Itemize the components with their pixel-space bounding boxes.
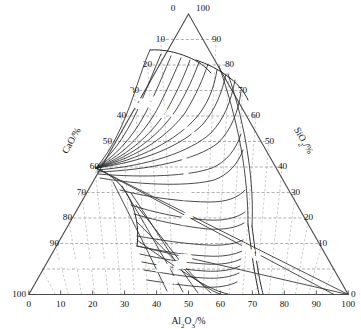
bottom-tick-80: 80: [280, 299, 290, 309]
bottom-tick-50: 50: [184, 299, 194, 309]
left-tick-10: 10: [156, 34, 166, 44]
right-tick-80: 80: [225, 59, 235, 69]
apex-top-right-value: 100: [196, 3, 210, 13]
contour-label: 80: [177, 245, 185, 254]
bottom-tick-70: 70: [248, 299, 258, 309]
ratio-label-r12: R=1.2: [239, 243, 261, 262]
grid-horizontal: [42, 40, 335, 270]
left-tick-100: 100: [12, 289, 26, 299]
bottom-tick-10: 10: [56, 299, 66, 309]
contour-label: 50: [179, 233, 187, 242]
contour-label: 150: [174, 261, 187, 270]
contour-label: 10: [182, 192, 190, 201]
triangle-axes: [29, 14, 348, 295]
phase-boundary-right-2: [252, 226, 263, 294]
contour-label: 300: [165, 276, 178, 285]
left-tick-90: 90: [50, 238, 60, 248]
right-tick-0: 0: [351, 289, 356, 299]
bottom-tick-0: 0: [27, 299, 32, 309]
left-axis-title-text: CaO/%: [59, 125, 83, 155]
right-axis-title: SiO2/%: [289, 125, 317, 158]
right-tick-70: 70: [238, 85, 248, 95]
right-tick-40: 40: [278, 161, 288, 171]
contour-label: 0.3: [144, 95, 157, 108]
right-tick-90: 90: [212, 34, 222, 44]
apex-labels: 0 100: [171, 3, 211, 13]
ternary-chart-svg: 0 100 10 20 30 40 50 60 70 80 90 100 90 …: [0, 0, 361, 329]
right-tick-30: 30: [291, 187, 301, 197]
bottom-tick-60: 60: [216, 299, 226, 309]
bottom-tick-30: 30: [120, 299, 130, 309]
contour-curve: [113, 182, 167, 291]
contour-label: 30: [182, 217, 190, 226]
right-tick-10: 10: [318, 238, 328, 248]
phase-boundary-top-2: [150, 50, 211, 73]
left-tick-60: 60: [90, 161, 100, 171]
contour-label: 2: [191, 132, 201, 139]
contour-label: 0.1: [132, 96, 145, 109]
contour-curve: [97, 80, 235, 170]
contour-label: 0.5: [155, 105, 168, 118]
right-tick-50: 50: [265, 136, 275, 146]
bottom-tick-90: 90: [312, 299, 322, 309]
bottom-axis-title: Al2O3/%: [171, 315, 205, 329]
left-tick-70: 70: [77, 187, 87, 197]
left-axis-title: CaO/%: [59, 125, 83, 155]
left-tick-40: 40: [117, 110, 127, 120]
contour-label: 1: [170, 113, 180, 120]
apex-top-left-value: 0: [171, 3, 176, 13]
left-tick-50: 50: [103, 136, 113, 146]
contour-label: 200: [157, 264, 170, 273]
bottom-tick-20: 20: [88, 299, 98, 309]
right-tick-60: 60: [251, 110, 261, 120]
contour-curve: [147, 280, 237, 287]
bottom-axis-tick-labels: 0 10 20 30 40 50 60 70 80 90 100: [27, 299, 356, 309]
left-tick-20: 20: [143, 59, 153, 69]
bottom-tick-100: 100: [341, 299, 355, 309]
mgo-note-text: w(MgO)=5%: [60, 258, 110, 268]
mgo-note: w(MgO)=5%: [60, 258, 110, 268]
grid-left-leaning: [42, 40, 174, 295]
bottom-tick-40: 40: [152, 299, 162, 309]
right-tick-20: 20: [304, 212, 314, 222]
phase-boundary-left: [96, 168, 138, 246]
ternary-diagram-root: 0 100 10 20 30 40 50 60 70 80 90 100 90 …: [0, 0, 361, 329]
bottom-tick-marks: [29, 291, 348, 295]
ratio-line-r08: [96, 168, 348, 295]
ratio-lines: [96, 168, 348, 295]
contour-label: 5: [184, 173, 188, 182]
left-tick-80: 80: [63, 212, 73, 222]
contour-label: 3.5: [183, 158, 193, 167]
ratio-label-r08: R=0.8: [253, 221, 275, 240]
